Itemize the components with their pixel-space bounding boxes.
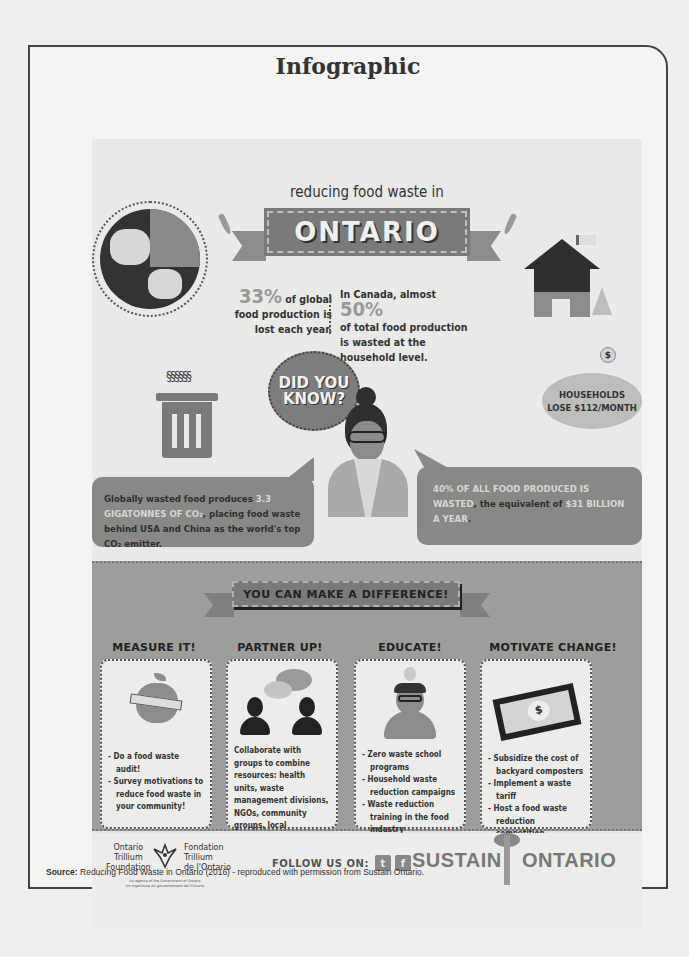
- ontario-logo-text: ONTARIO: [522, 849, 616, 872]
- carrot-icon: [503, 213, 518, 235]
- column-title-partner: PARTNER UP!: [224, 641, 336, 654]
- piggy-bank-text: HOUSEHOLDS LOSE $112/MONTH: [542, 389, 642, 415]
- stat-global: 33% of global food production is lost ea…: [212, 289, 332, 337]
- piggy-line-2: LOSE $112/MONTH: [542, 402, 642, 415]
- difference-banner-text: YOU CAN MAKE A DIFFERENCE!: [243, 588, 449, 601]
- sustain-logo-text: SUSTAIN: [412, 849, 502, 872]
- apple-leaf: [154, 673, 166, 681]
- coin-icon: $: [600, 347, 616, 363]
- source-text: Reducing Food Waste in Ontario (2016) - …: [78, 867, 424, 877]
- glasses-icon: [348, 431, 386, 443]
- infographic-footer: Ontario Trillium Foundation Fondation Tr…: [92, 833, 642, 929]
- fact-bubble-co2: Globally wasted food produces 3.3 GIGATO…: [92, 477, 314, 547]
- fact-bubble-waste: 40% OF ALL FOOD PRODUCED IS WASTED, the …: [417, 467, 642, 545]
- source-citation: Source: Reducing Food Waste in Ontario (…: [46, 867, 424, 877]
- stink-lines-icon: §§§§§§: [166, 369, 190, 383]
- dollar-bill-icon: $: [493, 683, 582, 741]
- food-waste-slice: [150, 209, 200, 267]
- bubble-waste-post: .: [468, 513, 471, 524]
- infographic-subtitle: reducing food waste in: [92, 183, 642, 201]
- infographic-panel: reducing food waste in ONTARIO 33% of gl…: [92, 139, 642, 929]
- ribbon-tail-left: [232, 231, 266, 261]
- difference-banner: YOU CAN MAKE A DIFFERENCE!: [232, 581, 460, 607]
- motivate-bullets: - Subsidize the cost of backyard compost…: [488, 753, 584, 841]
- card-motivate: $ - Subsidize the cost of backyard compo…: [480, 659, 592, 829]
- list-item: - Subsidize the cost of backyard compost…: [488, 753, 584, 778]
- list-item: - Survey motivations to reduce food wast…: [108, 776, 204, 814]
- column-title-measure: MEASURE IT!: [98, 641, 210, 654]
- list-item: - Waste reduction training in the food i…: [362, 799, 458, 837]
- otf-agency-note: An agency of the Government of Ontario U…: [120, 879, 210, 889]
- measure-bullets: - Do a food waste audit! - Survey motiva…: [108, 751, 204, 814]
- person-icon: [240, 697, 270, 737]
- bubble-co2-pre: Globally wasted food produces: [104, 493, 256, 504]
- stat-global-value: 33%: [239, 284, 282, 308]
- list-item: - Zero waste school programs: [362, 749, 458, 774]
- educate-bullets: - Zero waste school programs - Household…: [362, 749, 458, 837]
- infographic-frame: Infographic reducing food waste in ONTAR…: [28, 45, 668, 889]
- trash-bin-lid: [156, 393, 218, 401]
- list-item: - Household waste reduction campaigns: [362, 774, 458, 799]
- stat-canada: In Canada, almost 50% of total food prod…: [340, 287, 470, 365]
- ontario-banner: ONTARIO: [267, 211, 467, 253]
- canada-flag-icon: [576, 235, 596, 245]
- ribbon-tail-left: [204, 593, 234, 617]
- wheat-stem: [504, 835, 510, 885]
- lightbulb-icon: [404, 667, 416, 681]
- trash-bin-icon: [162, 402, 212, 458]
- stat-divider: [329, 294, 331, 334]
- teacher-body: [384, 711, 436, 739]
- facts-section: reducing food waste in ONTARIO 33% of gl…: [92, 139, 642, 561]
- dollar-sign-icon: $: [526, 699, 552, 723]
- tree-icon: [592, 287, 612, 315]
- trillium-logo-icon: [152, 843, 178, 869]
- teacher-hat: [394, 683, 426, 693]
- list-item: - Implement a waste tariff: [488, 778, 584, 803]
- card-measure: - Do a food waste audit! - Survey motiva…: [100, 659, 212, 829]
- glasses-icon: [398, 695, 422, 702]
- globe-food-waste-icon: [100, 209, 200, 309]
- person-icon: [292, 697, 322, 737]
- card-educate: - Zero waste school programs - Household…: [354, 659, 466, 829]
- list-item: - Do a food waste audit!: [108, 751, 204, 776]
- did-you-know-text: DID YOU KNOW?: [270, 375, 358, 407]
- actions-section: YOU CAN MAKE A DIFFERENCE! MEASURE IT! P…: [92, 561, 642, 831]
- stat-canada-value: 50%: [340, 297, 383, 321]
- piggy-line-1: HOUSEHOLDS: [542, 389, 642, 402]
- column-title-educate: EDUCATE!: [354, 641, 466, 654]
- ontario-banner-text: ONTARIO: [294, 217, 440, 247]
- carrot-icon: [218, 213, 233, 235]
- column-title-motivate: MOTIVATE CHANGE!: [478, 641, 628, 654]
- bubble-waste-mid: , the equivalent of: [474, 498, 566, 509]
- ribbon-tail-right: [460, 593, 490, 617]
- house-door: [552, 299, 570, 317]
- source-label: Source:: [46, 867, 78, 877]
- card-partner: Collaborate with groups to combine resou…: [226, 659, 338, 829]
- continent-shape: [148, 269, 182, 299]
- stat-canada-text: of total food production is wasted at th…: [340, 321, 467, 363]
- frame-title: Infographic: [30, 53, 666, 79]
- ribbon-tail-right: [467, 231, 501, 261]
- continent-shape: [110, 229, 150, 265]
